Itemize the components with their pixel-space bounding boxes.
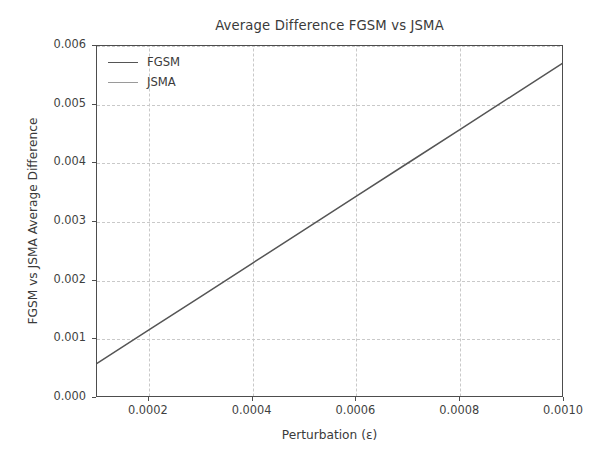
x-tick-label: 0.0010	[543, 403, 583, 417]
legend-label: JSMA	[147, 75, 176, 89]
x-tick-mark	[459, 397, 460, 401]
y-tick-mark	[92, 104, 96, 105]
data-lines	[97, 46, 563, 397]
legend-line-swatch	[108, 62, 138, 63]
y-tick-mark	[92, 280, 96, 281]
legend-item[interactable]: FGSM	[108, 52, 180, 72]
y-tick-mark	[92, 338, 96, 339]
legend-line-swatch	[108, 82, 138, 83]
chart-title: Average Difference FGSM vs JSMA	[96, 18, 563, 33]
series-line	[97, 62, 563, 363]
x-tick-label: 0.0004	[232, 403, 272, 417]
y-axis-label: FGSM vs JSMA Average Difference	[26, 45, 44, 397]
figure-canvas: Average Difference FGSM vs JSMA 0.0000.0…	[0, 0, 591, 463]
legend-label: FGSM	[147, 55, 180, 69]
plot-area	[96, 45, 563, 397]
x-tick-label: 0.0008	[439, 403, 479, 417]
x-tick-mark	[563, 397, 564, 401]
x-tick-mark	[355, 397, 356, 401]
legend: FGSMJSMA	[108, 52, 180, 92]
y-tick-mark	[92, 397, 96, 398]
y-tick-mark	[92, 162, 96, 163]
legend-item[interactable]: JSMA	[108, 72, 180, 92]
y-tick-mark	[92, 45, 96, 46]
x-tick-mark	[252, 397, 253, 401]
x-tick-label: 0.0002	[128, 403, 168, 417]
x-tick-label: 0.0006	[336, 403, 376, 417]
x-axis-label: Perturbation (ε)	[96, 428, 563, 442]
x-tick-mark	[148, 397, 149, 401]
y-tick-mark	[92, 221, 96, 222]
